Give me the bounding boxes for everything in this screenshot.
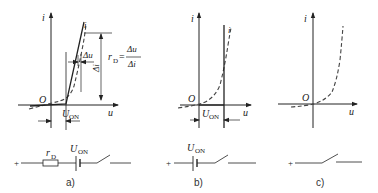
x-axis-label: u <box>108 107 113 118</box>
switch-blade <box>322 154 338 163</box>
resistance-formula: r D = Δu Δi <box>108 44 141 69</box>
uon-sub: ON <box>209 113 219 121</box>
source-sub: ON <box>78 148 88 156</box>
formula-lhs: r <box>108 51 112 62</box>
diode-models-figure: i u O i Δu Δi r D = Δu Δi U <box>0 0 378 193</box>
dashed-diode-curve <box>29 24 86 109</box>
uon-sub: ON <box>69 113 79 121</box>
dashed-diode-curve <box>291 26 343 107</box>
x-axis-label: u <box>243 107 248 118</box>
plus-terminal: + <box>166 158 171 168</box>
curve-label: i <box>84 20 87 30</box>
panel-a-circuit: + r D U ON a) <box>14 143 131 188</box>
formula-lhs-sub: D <box>113 57 118 65</box>
origin-label: O <box>39 94 46 105</box>
formula-numerator: Δu <box>126 44 137 54</box>
y-axis-label: i <box>304 13 307 24</box>
resistor-label: r <box>46 147 50 158</box>
panel-b-circuit: + U ON b) <box>166 142 256 188</box>
source-label: U <box>70 143 78 154</box>
origin-label: O <box>188 93 195 104</box>
panel-b-graph: i u O i U ON <box>178 13 251 128</box>
caption-a: a) <box>66 177 75 188</box>
delta-i-label: Δi <box>91 64 101 73</box>
panel-c-circuit: + c) <box>288 154 362 188</box>
source-label: U <box>187 142 195 153</box>
source-sub: ON <box>195 147 205 155</box>
formula-denominator: Δi <box>127 59 136 69</box>
resistor-sub: D <box>51 153 56 161</box>
delta-u-label: Δu <box>82 50 93 60</box>
switch-blade <box>97 155 110 163</box>
formula-eq: = <box>119 51 125 62</box>
caption-c: c) <box>316 177 324 188</box>
plus-terminal: + <box>14 158 19 168</box>
y-axis-label: i <box>191 13 194 24</box>
caption-b: b) <box>194 177 203 188</box>
panel-c-graph: i u O <box>278 13 357 128</box>
plus-terminal: + <box>288 158 293 168</box>
switch-blade <box>215 155 228 163</box>
x-axis-label: u <box>349 106 354 117</box>
y-axis-label: i <box>42 12 45 23</box>
panel-a-graph: i u O i Δu Δi r D = Δu Δi U <box>18 12 141 130</box>
origin-label: O <box>302 92 309 103</box>
dashed-diode-curve <box>178 28 231 108</box>
